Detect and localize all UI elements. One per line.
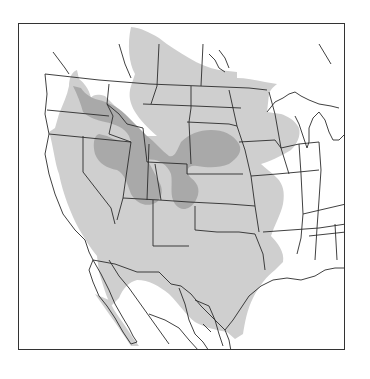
lake-superior xyxy=(267,92,339,112)
range-map xyxy=(19,24,345,350)
map-frame: Species range map — western and central … xyxy=(18,23,345,350)
